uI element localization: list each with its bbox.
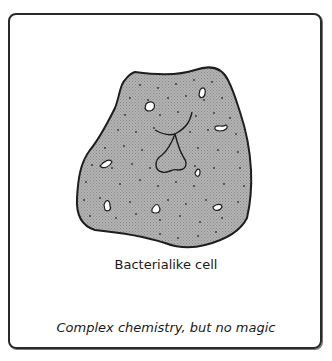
cell-body — [77, 67, 251, 247]
bacterialike-cell-illustration — [0, 0, 332, 361]
cell-label: Bacterialike cell — [0, 257, 332, 272]
figure-caption: Complex chemistry, but no magic — [0, 320, 332, 335]
